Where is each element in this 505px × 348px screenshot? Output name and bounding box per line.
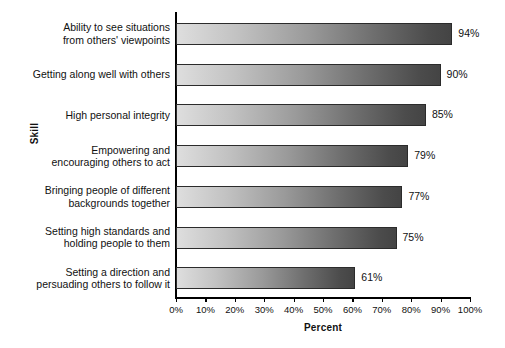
bar-row[interactable]: 79% bbox=[176, 145, 470, 167]
x-tick-label: 40% bbox=[284, 304, 303, 315]
category-label-line: Empowering and bbox=[18, 144, 170, 157]
bar-value-label: 85% bbox=[432, 108, 453, 120]
bar-row[interactable]: 61% bbox=[176, 267, 470, 289]
category-label: Bringing people of differentbackgrounds … bbox=[18, 184, 170, 209]
x-tick-mark bbox=[470, 297, 471, 302]
plot-area: 94%90%85%79%77%75%61% 0%10%20%30%40%50%6… bbox=[176, 12, 470, 297]
bar-value-label: 75% bbox=[403, 231, 424, 243]
x-tick-mark bbox=[264, 297, 265, 302]
bar-value-label: 94% bbox=[458, 27, 479, 39]
x-tick-mark bbox=[441, 297, 442, 302]
category-label-line: holding people to them bbox=[18, 237, 170, 250]
bar[interactable] bbox=[176, 23, 452, 45]
x-tick-mark bbox=[382, 297, 383, 302]
bar-row[interactable]: 85% bbox=[176, 104, 470, 126]
category-label-line: from others' viewpoints bbox=[18, 34, 170, 47]
bar[interactable] bbox=[176, 227, 397, 249]
x-tick-label: 20% bbox=[225, 304, 244, 315]
x-tick-label: 100% bbox=[458, 304, 482, 315]
bar[interactable] bbox=[176, 267, 355, 289]
bar-row[interactable]: 75% bbox=[176, 227, 470, 249]
category-label-line: Setting high standards and bbox=[18, 225, 170, 238]
x-tick-mark bbox=[323, 297, 324, 302]
bar[interactable] bbox=[176, 64, 441, 86]
bar-value-label: 90% bbox=[447, 68, 468, 80]
category-label: Getting along well with others bbox=[18, 68, 170, 81]
x-tick-label: 90% bbox=[431, 304, 450, 315]
x-tick-label: 0% bbox=[169, 304, 183, 315]
bar-value-label: 61% bbox=[361, 271, 382, 283]
x-tick-mark bbox=[235, 297, 236, 302]
x-tick-mark bbox=[294, 297, 295, 302]
bar-row[interactable]: 94% bbox=[176, 23, 470, 45]
x-tick-label: 80% bbox=[402, 304, 421, 315]
category-label-line: Getting along well with others bbox=[18, 68, 170, 81]
category-label: Setting a direction andpersuading others… bbox=[18, 266, 170, 291]
bar-value-label: 79% bbox=[414, 149, 435, 161]
category-label-line: backgrounds together bbox=[18, 197, 170, 210]
category-label-line: High personal integrity bbox=[18, 109, 170, 122]
category-label: Ability to see situationsfrom others' vi… bbox=[18, 21, 170, 46]
bar[interactable] bbox=[176, 186, 402, 208]
category-label-line: encouraging others to act bbox=[18, 156, 170, 169]
category-label-line: Bringing people of different bbox=[18, 184, 170, 197]
x-tick-mark bbox=[411, 297, 412, 302]
x-tick-mark bbox=[352, 297, 353, 302]
bar-row[interactable]: 90% bbox=[176, 64, 470, 86]
category-label: Empowering andencouraging others to act bbox=[18, 144, 170, 169]
x-tick-label: 60% bbox=[343, 304, 362, 315]
x-tick-label: 30% bbox=[255, 304, 274, 315]
category-label-list: Ability to see situationsfrom others' vi… bbox=[18, 12, 170, 297]
category-label: High personal integrity bbox=[18, 109, 170, 122]
bar-chart: Skill Ability to see situationsfrom othe… bbox=[0, 0, 505, 348]
x-tick-label: 50% bbox=[313, 304, 332, 315]
x-tick-label: 10% bbox=[196, 304, 215, 315]
bar-row[interactable]: 77% bbox=[176, 186, 470, 208]
category-label-line: Setting a direction and bbox=[18, 266, 170, 279]
x-tick-mark bbox=[205, 297, 206, 302]
category-label: Setting high standards andholding people… bbox=[18, 225, 170, 250]
category-label-line: Ability to see situations bbox=[18, 21, 170, 34]
bar[interactable] bbox=[176, 145, 408, 167]
x-tick-mark bbox=[176, 297, 177, 302]
bar[interactable] bbox=[176, 104, 426, 126]
x-tick-label: 70% bbox=[372, 304, 391, 315]
x-axis-title: Percent bbox=[176, 322, 470, 333]
bar-value-label: 77% bbox=[408, 190, 429, 202]
category-label-line: persuading others to follow it bbox=[18, 278, 170, 291]
